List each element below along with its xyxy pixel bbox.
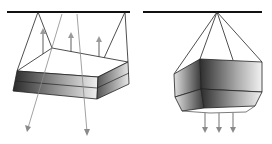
- luminaire-diagram: [0, 0, 272, 144]
- drum-front-lower-facet: [201, 89, 262, 108]
- drum-front-facet: [200, 59, 262, 92]
- downlight-arrows-right: [202, 112, 236, 133]
- right-luminaire: [143, 12, 262, 133]
- left-luminaire: [7, 12, 130, 136]
- diagram-canvas: [0, 0, 272, 144]
